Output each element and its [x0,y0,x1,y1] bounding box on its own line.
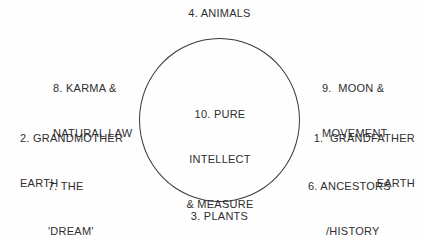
label-karma-line1: 8. KARMA & [53,81,132,96]
label-the-dream: 7. THE 'DREAM' [48,149,94,238]
label-ancestors-line1: 6. ANCESTORS [308,179,391,194]
label-dream-line1: 7. THE [48,179,94,194]
label-animals: 4. ANIMALS [139,6,300,21]
label-ancestors-line2: /HISTORY [326,224,391,238]
label-ancestors-history: 6. ANCESTORS /HISTORY [308,149,391,238]
label-pure-intellect-line3: & MEASURE [140,197,300,212]
label-grandmother-line1: 2. GRANDMOTHER [20,131,123,146]
label-grandfather-line1: 1. GRANDFATHER [314,131,415,146]
label-pure-intellect-line1: 10. PURE [140,107,300,122]
label-dream-line2: 'DREAM' [48,224,94,238]
label-moon-line1: 9. MOON & [322,81,388,96]
medicine-wheel-diagram: 4. ANIMALS 8. KARMA & NATURAL LAW 9. MOO… [0,0,426,238]
label-circle-center: 10. PURE INTELLECT & MEASURE 5. HUMANS [140,77,300,238]
label-pure-intellect-line2: INTELLECT [140,152,300,167]
